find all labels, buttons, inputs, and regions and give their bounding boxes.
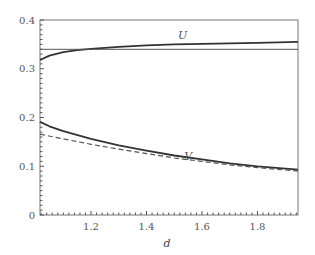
series-line [40,122,298,170]
series-group [40,42,298,171]
y-tick-label: 0.2 [19,112,35,123]
x-tick-label: 1.8 [250,221,266,232]
y-tick-label: 0.3 [19,63,35,74]
x-axis: 1.21.41.61.8 [41,211,296,232]
y-tick-label: 0.1 [19,161,35,172]
x-axis-label: d [163,237,170,250]
series-annotation: U [178,29,188,42]
x-tick-label: 1.2 [83,221,99,232]
annotations: UV [178,29,193,163]
series-line [40,42,298,60]
chart: 00.10.20.30.4 1.21.41.61.8 UV d [0,0,315,255]
series-annotation: V [184,150,193,163]
x-tick-label: 1.4 [139,221,155,232]
x-tick-label: 1.6 [194,221,210,232]
y-tick-label: 0.4 [19,15,35,26]
y-tick-label: 0 [29,210,35,221]
